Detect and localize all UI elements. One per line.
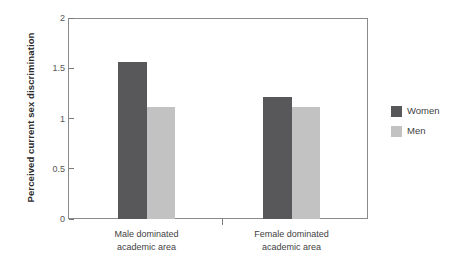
x-axis-label-line: academic area	[217, 241, 367, 254]
legend-swatch-women-icon	[391, 106, 402, 117]
legend-label-women: Women	[407, 104, 440, 118]
bar-men-group2	[292, 107, 321, 219]
bar-chart: Perceived current sex discrimination 00.…	[0, 0, 463, 271]
y-axis-tick: 0.5	[30, 163, 74, 175]
plot-area	[68, 18, 368, 219]
x-axis-label-group2: Female dominatedacademic area	[217, 228, 367, 253]
legend-swatch-men-icon	[391, 126, 402, 137]
x-axis-label-line: Female dominated	[217, 228, 367, 241]
y-axis-tick-label: 0	[60, 213, 65, 225]
x-axis-center-tick	[222, 219, 223, 225]
legend-item-women: Women	[391, 104, 461, 124]
y-axis-tick-mark	[69, 18, 74, 19]
y-axis-tick-label: 1.5	[52, 62, 65, 74]
y-axis-tick: 2	[30, 12, 74, 24]
bar-men-group1	[147, 107, 176, 219]
y-axis-tick-label: 0.5	[52, 163, 65, 175]
y-axis-tick-label: 1	[60, 113, 65, 125]
bar-women-group1	[118, 62, 147, 219]
x-axis-label-group1: Male dominatedacademic area	[72, 228, 222, 253]
y-axis-tick: 1	[30, 113, 74, 125]
x-axis-label-line: Male dominated	[72, 228, 222, 241]
y-axis-tick-mark	[69, 219, 74, 220]
y-axis-tick-mark	[69, 168, 74, 169]
y-axis-tick-mark	[69, 118, 74, 119]
bar-women-group2	[263, 97, 292, 219]
y-axis-tick-label: 2	[60, 12, 65, 24]
y-axis-tick: 0	[30, 213, 74, 225]
legend-label-men: Men	[407, 124, 425, 138]
legend: Women Men	[391, 104, 461, 144]
legend-item-men: Men	[391, 124, 461, 144]
y-axis-tick-mark	[69, 68, 74, 69]
x-axis-label-line: academic area	[72, 241, 222, 254]
y-axis-tick: 1.5	[30, 62, 74, 74]
